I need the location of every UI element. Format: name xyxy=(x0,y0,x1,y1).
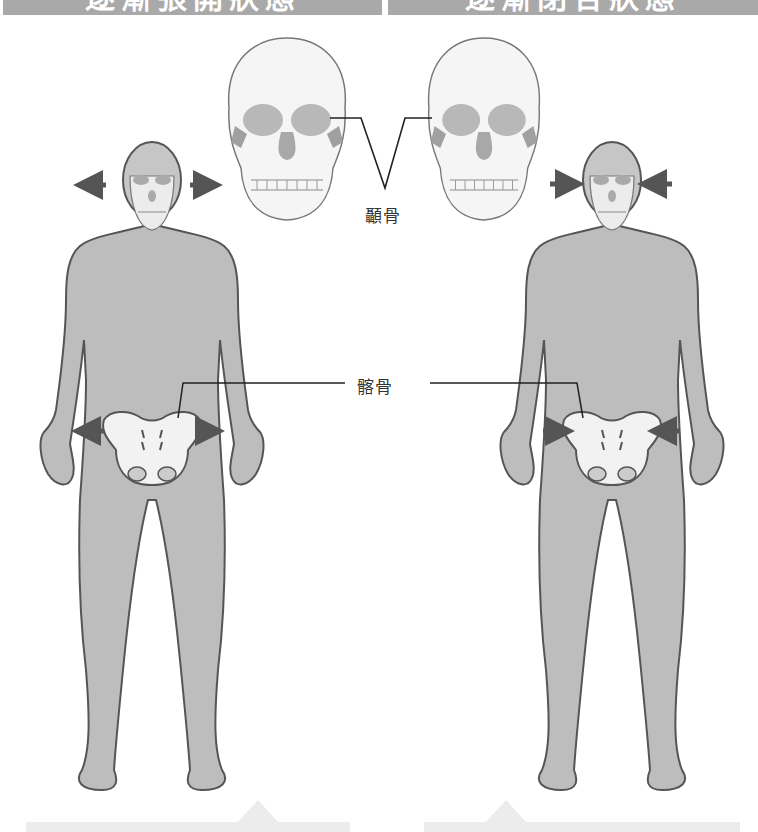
bottom-panel-left xyxy=(26,822,350,832)
bottom-panel-right xyxy=(424,822,740,832)
skull-left xyxy=(229,38,346,220)
skull-right xyxy=(429,38,540,220)
bottom-notch-left xyxy=(236,800,280,824)
temporal-bone-label: 顳骨 xyxy=(361,202,405,227)
figure-left xyxy=(41,142,264,790)
ilium-label: 髂骨 xyxy=(353,373,397,398)
bottom-notch-right xyxy=(484,800,528,824)
figure-right xyxy=(501,142,724,790)
temporal-callout-line xyxy=(330,118,432,188)
